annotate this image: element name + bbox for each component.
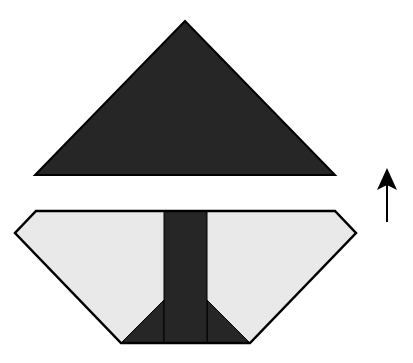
bottom-folded-shape bbox=[15, 211, 356, 343]
top-triangle bbox=[35, 21, 335, 175]
origami-diagram bbox=[0, 0, 413, 363]
center-dark-strip bbox=[164, 211, 207, 343]
up-arrow-icon bbox=[377, 168, 397, 222]
